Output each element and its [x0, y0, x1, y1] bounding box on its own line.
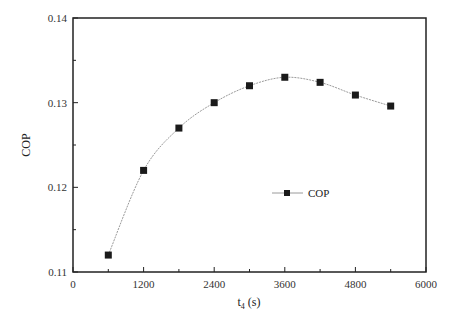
chart: 012002400360048006000 0.110.120.130.14 C… — [0, 0, 458, 327]
series-line-cop — [108, 77, 390, 255]
data-point-marker — [140, 167, 147, 174]
x-tick-label: 1200 — [133, 278, 156, 290]
data-point-marker — [317, 79, 324, 86]
data-point-marker — [352, 92, 359, 99]
data-point-marker — [211, 99, 218, 106]
plot-frame — [73, 18, 426, 272]
data-point-marker — [246, 82, 253, 89]
x-axis-label: t4 (s) — [237, 295, 260, 311]
x-tick-label: 2400 — [203, 278, 226, 290]
legend-marker-icon — [284, 190, 290, 196]
x-axis-ticks: 012002400360048006000 — [70, 267, 437, 290]
y-tick-label: 0.12 — [48, 181, 67, 193]
data-point-marker — [281, 74, 288, 81]
x-tick-label: 4800 — [344, 278, 367, 290]
x-tick-label: 3600 — [274, 278, 297, 290]
x-tick-label: 6000 — [415, 278, 438, 290]
y-tick-label: 0.14 — [48, 12, 68, 24]
x-tick-label: 0 — [70, 278, 76, 290]
series-markers-cop — [105, 74, 394, 259]
y-axis-label: COP — [19, 133, 33, 157]
legend-label: COP — [308, 187, 329, 199]
data-point-marker — [387, 103, 394, 110]
y-tick-label: 0.13 — [48, 97, 68, 109]
legend: COP — [272, 187, 329, 199]
y-tick-label: 0.11 — [48, 266, 67, 278]
data-point-marker — [105, 252, 112, 259]
data-point-marker — [175, 125, 182, 132]
